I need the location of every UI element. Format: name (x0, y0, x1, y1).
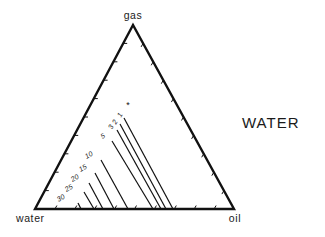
diagram-title: WATER (242, 114, 300, 131)
data-marker: * (126, 100, 130, 110)
contour-line-1 (124, 118, 173, 209)
contour-label-1: 1 (116, 111, 124, 118)
vertex-label-gas: gas (124, 9, 143, 21)
contour-label-5: 5 (99, 132, 106, 140)
vertex-label-water: water (15, 212, 45, 224)
ternary-diagram: 12351015202530 * gas water oil WATER (0, 0, 325, 237)
vertex-label-oil: oil (229, 212, 241, 224)
contour-label-20: 20 (69, 173, 80, 184)
contour-labels: 12351015202530 (56, 111, 124, 202)
ternary-triangle (35, 25, 234, 209)
contour-label-2: 2 (110, 118, 119, 126)
contour-label-25: 25 (63, 183, 74, 194)
contour-label-30: 30 (56, 193, 66, 203)
contour-label-10: 10 (84, 150, 94, 160)
contour-line-25 (84, 192, 94, 209)
contour-line-5 (112, 141, 153, 209)
contour-lines (78, 118, 173, 209)
contour-line-10 (101, 160, 128, 209)
contour-line-3 (117, 130, 161, 209)
edge-ticks (45, 43, 224, 209)
contour-label-15: 15 (78, 163, 88, 173)
